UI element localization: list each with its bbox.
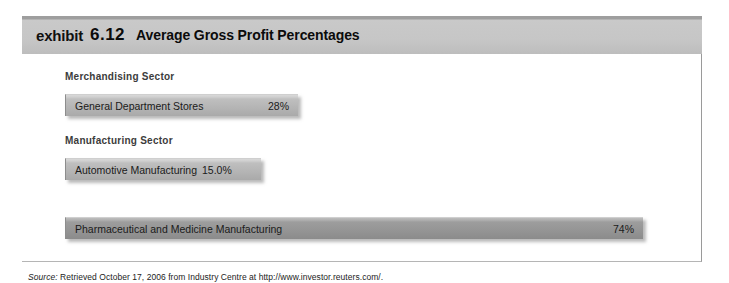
- bar-label: General Department Stores: [75, 100, 203, 112]
- bar-value: 28%: [268, 100, 289, 112]
- exhibit-header: exhibit 6.12 Average Gross Profit Percen…: [22, 16, 702, 54]
- sector-label-merchandising: Merchandising Sector: [65, 71, 174, 82]
- exhibit-label: exhibit: [36, 27, 83, 44]
- bar-value: 74%: [613, 223, 634, 235]
- exhibit-panel: exhibit 6.12 Average Gross Profit Percen…: [22, 16, 702, 262]
- exhibit-number: 6.12: [90, 25, 125, 45]
- sector-label-manufacturing: Manufacturing Sector: [65, 135, 173, 146]
- source-note-text: Retrieved October 17, 2006 from Industry…: [58, 272, 384, 282]
- bar-general-department-stores: General Department Stores 28%: [65, 94, 298, 116]
- bar-pharmaceutical-medicine-manufacturing: Pharmaceutical and Medicine Manufacturin…: [65, 217, 643, 239]
- bar-label: Pharmaceutical and Medicine Manufacturin…: [75, 223, 282, 235]
- page-title: Average Gross Profit Percentages: [136, 27, 360, 43]
- bar-value: 15.0%: [202, 164, 232, 176]
- source-note-prefix: Source:: [28, 272, 58, 282]
- chart-area: Merchandising Sector General Department …: [22, 54, 702, 262]
- bar-automotive-manufacturing: Automotive Manufacturing 15.0%: [65, 158, 261, 180]
- source-note: Source: Retrieved October 17, 2006 from …: [28, 272, 383, 282]
- bar-label: Automotive Manufacturing: [75, 164, 197, 176]
